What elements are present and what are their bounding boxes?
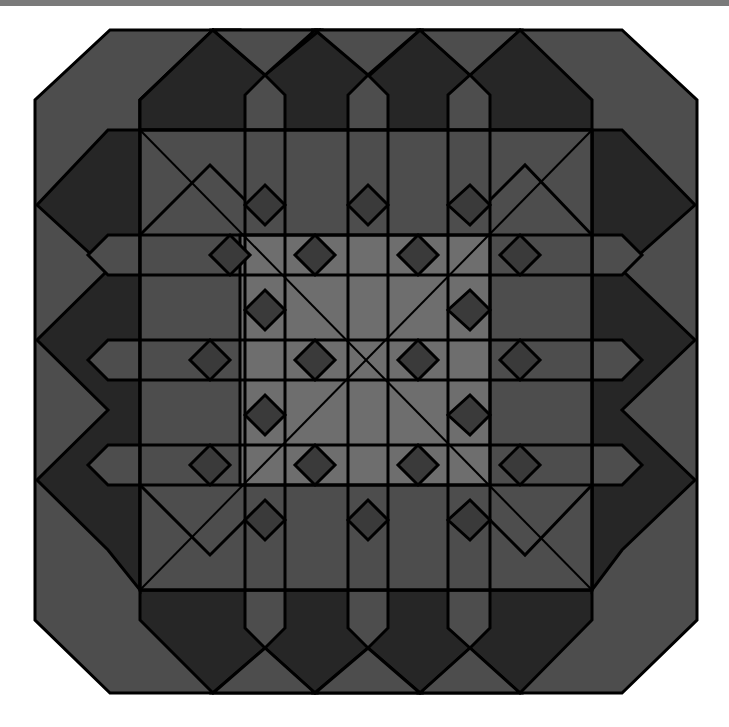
woven-pattern: [0, 0, 729, 727]
